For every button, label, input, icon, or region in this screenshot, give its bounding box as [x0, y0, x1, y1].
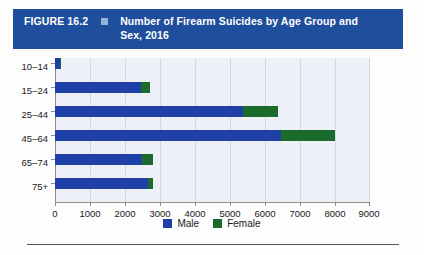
y-axis-label-45-64: 45–64 [0, 133, 48, 144]
x-tickmark [265, 202, 266, 206]
legend-label-female: Female [227, 218, 260, 229]
footer-divider [27, 244, 399, 245]
figure-number-label: FIGURE 16.2 [24, 15, 88, 29]
x-tickmark [300, 202, 301, 206]
gridline-9000 [369, 58, 370, 202]
gridline-8000 [335, 58, 336, 202]
legend-label-male: Male [177, 218, 199, 229]
bar-segment-male [55, 82, 141, 93]
legend-item-female[interactable]: Female [213, 218, 260, 229]
chart-legend: Male Female [0, 218, 424, 229]
y-axis-label-15-24: 15–24 [0, 85, 48, 96]
x-axis-line [55, 202, 370, 203]
bar-segment-male [55, 130, 281, 141]
figure-title: Number of Firearm Suicides by Age Group … [120, 15, 375, 42]
x-tickmark [125, 202, 126, 206]
legend-item-male[interactable]: Male [163, 218, 199, 229]
bar-segment-female [60, 58, 61, 69]
x-tickmark [230, 202, 231, 206]
x-tickmark [55, 202, 56, 206]
bar-segment-male [55, 106, 243, 117]
figure-header: FIGURE 16.2 Number of Firearm Suicides b… [13, 9, 403, 49]
y-axis-label-65-74: 65–74 [0, 157, 48, 168]
legend-swatch-male [163, 219, 172, 228]
bar-segment-female [141, 82, 150, 93]
figure-header-line: FIGURE 16.2 Number of Firearm Suicides b… [24, 15, 393, 42]
x-tickmark [90, 202, 91, 206]
bar-segment-female [148, 178, 154, 189]
bar-segment-male [55, 154, 142, 165]
x-tickmark [195, 202, 196, 206]
bar-segment-female [281, 130, 334, 141]
x-tickmark [335, 202, 336, 206]
x-tickmark [160, 202, 161, 206]
figure-container: FIGURE 16.2 Number of Firearm Suicides b… [0, 0, 424, 255]
bar-segment-female [243, 106, 278, 117]
bar-segment-male [55, 178, 148, 189]
x-tickmark [369, 202, 370, 206]
y-axis-label-10-14: 10–14 [0, 61, 48, 72]
square-glyph-icon [101, 18, 108, 25]
y-axis-label-75-plus: 75+ [0, 181, 48, 192]
bar-segment-female [142, 154, 152, 165]
legend-swatch-female [213, 219, 222, 228]
y-axis-label-25-44: 25–44 [0, 109, 48, 120]
